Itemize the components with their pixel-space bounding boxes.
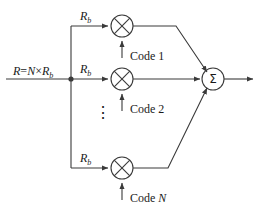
code-2-label: Code 2 (130, 103, 164, 115)
input-rb-subscript: b (49, 71, 53, 80)
block-diagram: R=N×Rb Rb Rb Rb Code 1 Code 2 Code N ⋮ Σ (0, 0, 261, 210)
branch-2-rate-label: Rb (80, 63, 91, 79)
branch-n-rate-label: Rb (80, 152, 91, 168)
branch-1-rate-label: Rb (80, 10, 91, 26)
branch-n-r-subscript: b (87, 158, 91, 167)
ellipsis-dots: ⋮ (95, 105, 111, 121)
input-n: N (27, 64, 35, 78)
code-n-label-index: N (158, 191, 166, 205)
code-n-label: Code N (130, 192, 166, 204)
out-n-to-summer (133, 88, 207, 168)
summation-symbol: Σ (206, 72, 220, 86)
code-1-label: Code 1 (130, 50, 164, 62)
junction-dot (68, 76, 73, 81)
input-times: × (35, 64, 42, 78)
branch-2-r-subscript: b (87, 69, 91, 78)
code-n-label-text: Code (130, 191, 158, 205)
input-rate-label: R=N×Rb (13, 65, 53, 81)
branch-1-r-subscript: b (87, 16, 91, 25)
